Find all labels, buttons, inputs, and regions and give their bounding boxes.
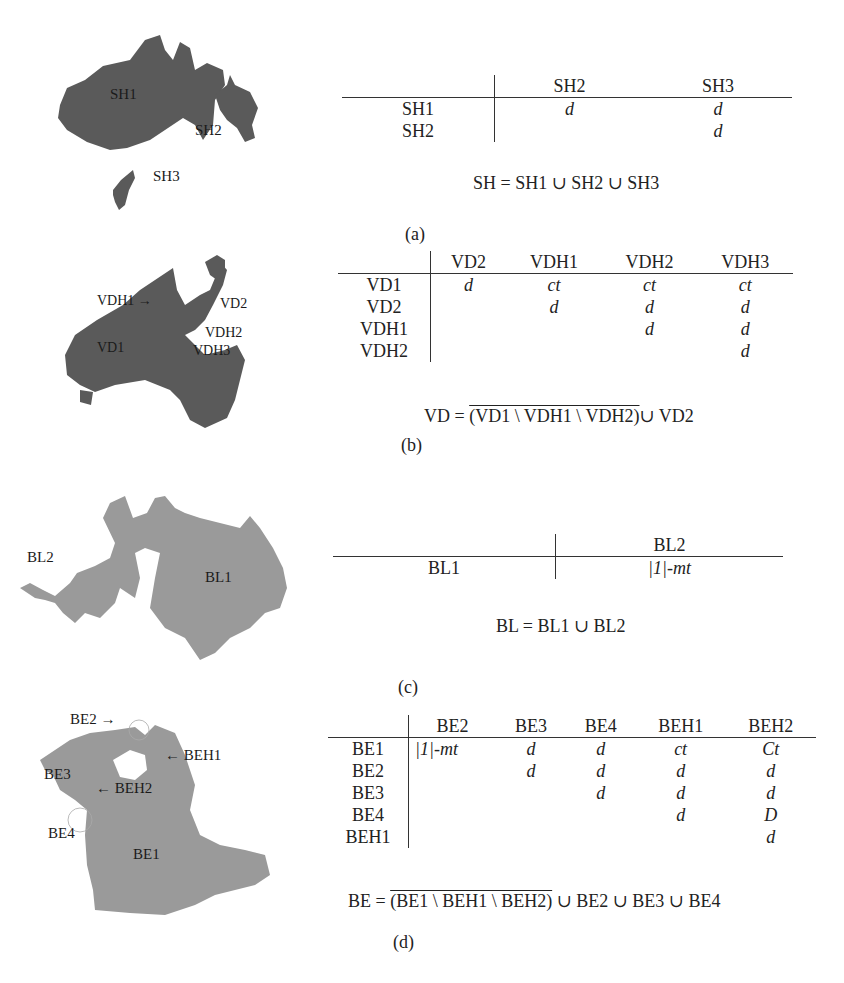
table-cell: d [636, 760, 726, 782]
map-label-beh2: ← BEH2 [96, 780, 152, 797]
formula-lhs: SH = [473, 173, 511, 193]
table-cell [506, 318, 602, 340]
table-cell: d [566, 760, 636, 782]
table-cell: d [697, 318, 793, 340]
map-label-vd1: VD1 [97, 340, 124, 356]
table-cell [409, 804, 497, 826]
formula-lhs: BL = [496, 616, 533, 636]
table-cell: d [566, 738, 636, 761]
map-label-be4: BE4 [48, 825, 75, 842]
panel-label-b: (b) [401, 435, 422, 456]
formula-be: BE = (BE1 \ BEH1 \ BEH2) ∪ BE2 ∪ BE3 ∪ B… [348, 890, 720, 912]
row-header: BE2 [328, 760, 409, 782]
table-cell: d [431, 274, 507, 297]
table-cell: d [506, 296, 602, 318]
table-cell: d [636, 804, 726, 826]
map-label-vdh2: VDH2 [205, 325, 242, 341]
row-header: SH2 [342, 120, 495, 142]
relation-table-bl: BL2 BL1 |1|-mt [333, 534, 783, 579]
relation-table-vd: VD2 VDH1 VDH2 VDH3 VD1 d ct ct ct VD2 d … [338, 251, 793, 362]
row-header: VDH1 [338, 318, 431, 340]
table-cell: d [697, 296, 793, 318]
formula-rhs: BL1 ∪ BL2 [537, 616, 625, 636]
formula-lhs: BE = [348, 891, 386, 911]
table-cell [496, 804, 566, 826]
formula-sh: SH = SH1 ∪ SH2 ∪ SH3 [473, 172, 659, 194]
formula-bl: BL = BL1 ∪ BL2 [496, 615, 626, 637]
table-cell [409, 782, 497, 804]
table-cell [431, 296, 507, 318]
map-bl [15, 488, 295, 668]
row-header: BEH1 [328, 826, 409, 848]
row-header: VD2 [338, 296, 431, 318]
table-cell: ct [636, 738, 726, 761]
map-label-sh1: SH1 [110, 86, 137, 103]
formula-rhs: ∪ VD2 [640, 406, 694, 426]
map-label-sh3: SH3 [153, 168, 180, 185]
row-header: VD1 [338, 274, 431, 297]
relation-table-be: BE2 BE3 BE4 BEH1 BEH2 BE1 |1|-mt d d ct … [328, 715, 816, 848]
table-cell: D [726, 804, 816, 826]
table-cell: d [636, 782, 726, 804]
table-cell: d [602, 318, 698, 340]
col-header: BEH2 [726, 715, 816, 738]
formula-vd: VD = (VD1 \ VDH1 \ VDH2)∪ VD2 [424, 405, 694, 427]
col-header: BE4 [566, 715, 636, 738]
map-label-beh1: ← BEH1 [165, 747, 221, 764]
table-cell [409, 760, 497, 782]
col-header: VDH1 [506, 251, 602, 274]
panel-label-a: (a) [405, 224, 425, 245]
table-cell [602, 340, 698, 362]
table-cell: ct [697, 274, 793, 297]
map-label-be1: BE1 [133, 846, 160, 863]
table-cell [636, 826, 726, 848]
row-header: BE3 [328, 782, 409, 804]
table-cell [495, 120, 645, 142]
table-cell: d [726, 782, 816, 804]
formula-rhs: ∪ BE2 ∪ BE3 ∪ BE4 [557, 891, 721, 911]
table-cell: Ct [726, 738, 816, 761]
formula-lhs: VD = [424, 406, 465, 426]
row-header: BE1 [328, 738, 409, 761]
map-label-be3: BE3 [44, 766, 71, 783]
table-cell [431, 340, 507, 362]
row-header: SH1 [342, 98, 495, 121]
table-cell: d [602, 296, 698, 318]
table-cell [566, 804, 636, 826]
table-cell: d [726, 826, 816, 848]
map-label-vdh1: VDH1 → [97, 293, 152, 309]
table-cell: d [496, 760, 566, 782]
table-cell [506, 340, 602, 362]
table-cell: d [697, 340, 793, 362]
table-cell [496, 826, 566, 848]
col-header: VDH2 [602, 251, 698, 274]
col-header: BL2 [556, 534, 784, 557]
map-label-vdh3: VDH3 [193, 343, 230, 359]
col-header: SH3 [644, 75, 792, 98]
table-cell: d [496, 738, 566, 761]
table-cell: d [566, 782, 636, 804]
relation-table-sh: SH2 SH3 SH1 d d SH2 d [342, 75, 792, 142]
map-label-vd2: VD2 [220, 296, 247, 312]
map-sh [55, 30, 275, 215]
col-header: BEH1 [636, 715, 726, 738]
table-cell [496, 782, 566, 804]
col-header: BE2 [409, 715, 497, 738]
row-header: BL1 [333, 557, 556, 580]
panel-label-d: (d) [393, 932, 414, 953]
col-header: VD2 [431, 251, 507, 274]
table-cell [566, 826, 636, 848]
map-be [35, 715, 275, 915]
table-cell: d [644, 120, 792, 142]
col-header: VDH3 [697, 251, 793, 274]
table-cell: |1|-mt [556, 557, 784, 580]
table-cell: |1|-mt [409, 738, 497, 761]
table-cell: d [495, 98, 645, 121]
table-cell: d [644, 98, 792, 121]
col-header: BE3 [496, 715, 566, 738]
map-label-bl1: BL1 [205, 569, 232, 586]
table-cell [409, 826, 497, 848]
table-cell: ct [602, 274, 698, 297]
map-label-bl2: BL2 [27, 549, 54, 566]
table-cell [431, 318, 507, 340]
